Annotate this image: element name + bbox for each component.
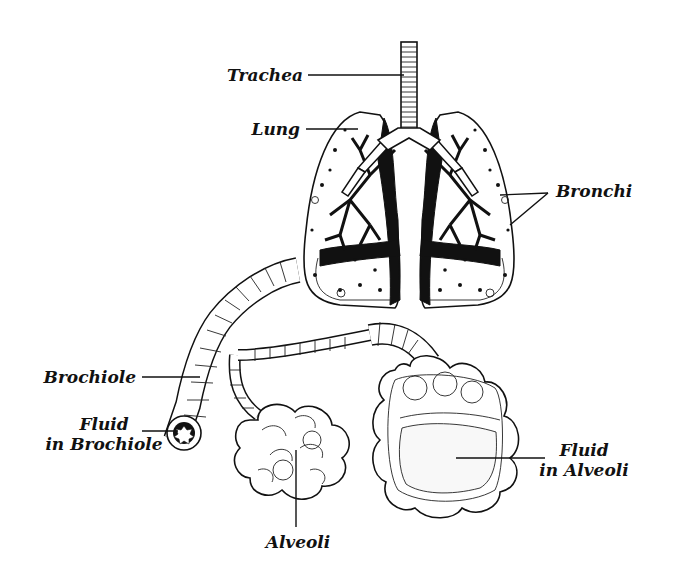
label-bronchi: Bronchi	[556, 181, 632, 201]
label-fluid-in-alveoli-line2: in Alveoli	[534, 460, 634, 480]
label-fluid-in-alveoli-line1: Fluid	[534, 440, 634, 460]
label-brochiole: Brochiole	[20, 367, 136, 387]
label-trachea: Trachea	[200, 65, 303, 85]
label-fluid-in-brochiole-line2: in Brochiole	[40, 434, 168, 454]
label-fluid-in-brochiole-line1: Fluid	[40, 414, 168, 434]
respiratory-diagram	[0, 0, 674, 576]
trachea-illustration	[401, 42, 417, 130]
alveoli-with-fluid-illustration	[373, 356, 519, 518]
bronchi-leader-line-lower	[510, 193, 548, 225]
alveoli-cluster-illustration	[235, 404, 350, 499]
label-lung: Lung	[220, 119, 300, 139]
label-fluid-in-alveoli: Fluid in Alveoli	[534, 440, 634, 480]
label-alveoli: Alveoli	[250, 532, 346, 552]
label-fluid-in-brochiole: Fluid in Brochiole	[40, 414, 168, 454]
